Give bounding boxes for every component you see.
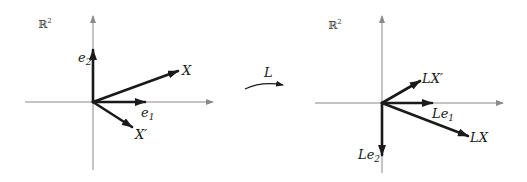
- space-symbol: ℝ: [328, 19, 337, 32]
- right-axes: [315, 16, 503, 173]
- label-text: e: [141, 105, 149, 120]
- label-subscript: 2: [86, 57, 92, 67]
- label-text: X: [182, 63, 191, 78]
- label-text: X′: [135, 127, 147, 142]
- vector-LX: [382, 103, 468, 136]
- right-vectors: [382, 81, 468, 155]
- label-text: LX: [470, 130, 488, 145]
- label-e2: e2: [78, 51, 91, 67]
- label-text: Le: [358, 147, 374, 162]
- label-X-prime: X′: [135, 128, 147, 141]
- space-symbol: ℝ: [38, 18, 47, 31]
- label-subscript: 2: [374, 154, 380, 164]
- label-text: e: [78, 50, 86, 65]
- vector-LX-prime: [382, 81, 420, 103]
- space-exponent: 2: [47, 17, 51, 25]
- left-vectors: [93, 50, 178, 127]
- label-text: L: [264, 65, 273, 80]
- label-Le1: Le1: [432, 107, 454, 123]
- label-text: LX′: [422, 71, 443, 86]
- space-exponent: 2: [337, 18, 341, 26]
- label-LX: LX: [470, 131, 488, 144]
- label-Le2: Le2: [358, 148, 380, 164]
- vector-X-prime: [93, 102, 132, 127]
- label-text: Le: [432, 106, 448, 121]
- right-space-label: ℝ2: [328, 19, 342, 31]
- label-X: X: [182, 64, 191, 77]
- diagram-canvas: [0, 0, 527, 182]
- left-space-label: ℝ2: [38, 18, 52, 30]
- map-label: L: [264, 66, 273, 79]
- label-e1: e1: [141, 106, 154, 122]
- label-LX-prime: LX′: [422, 72, 443, 85]
- label-subscript: 1: [448, 113, 454, 123]
- vector-X: [93, 71, 178, 102]
- label-subscript: 1: [149, 112, 155, 122]
- map-arrow: [245, 84, 283, 89]
